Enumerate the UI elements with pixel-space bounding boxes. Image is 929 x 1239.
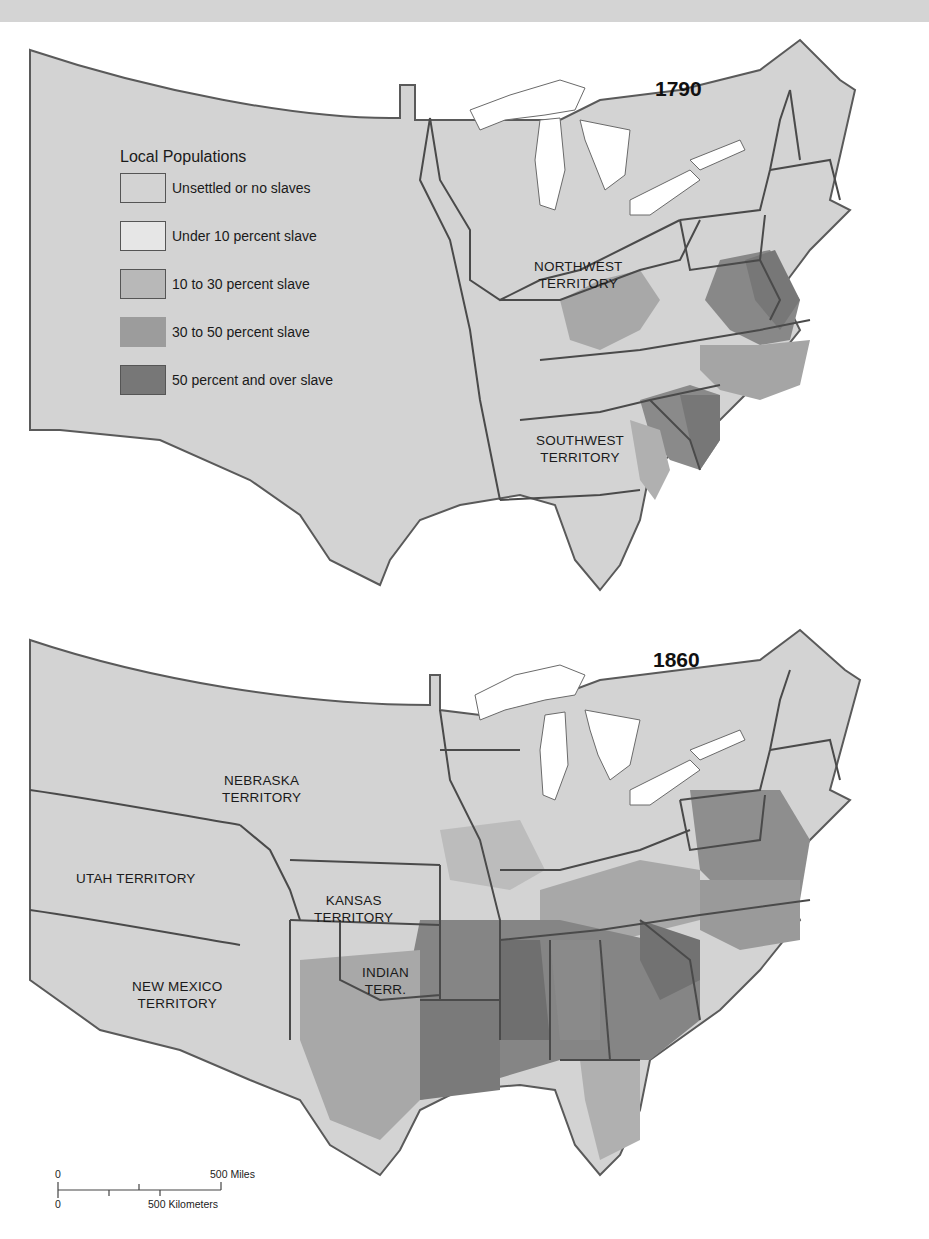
legend-swatch (120, 173, 166, 203)
legend-item-10-30: 10 to 30 percent slave (120, 272, 333, 295)
scale-miles-end: 500 Miles (210, 1168, 255, 1180)
legend-swatch (120, 317, 166, 347)
legend-label: 30 to 50 percent slave (172, 324, 310, 340)
scale-km-start: 0 (55, 1198, 61, 1210)
legend-item-under-10: Under 10 percent slave (120, 224, 333, 247)
scale-km-end: 500 Kilometers (148, 1198, 218, 1210)
region-la (420, 1000, 500, 1100)
legend-item-over-50: 50 percent and over slave (120, 368, 333, 391)
legend-label: Under 10 percent slave (172, 228, 317, 244)
legend-label: 50 percent and over slave (172, 372, 333, 388)
map-1790: 1790 NORTHWEST TERRITORY SOUTHWEST TERRI… (0, 0, 929, 620)
legend-swatch (120, 221, 166, 251)
label-kansas-territory: KANSAS TERRITORY (314, 892, 393, 926)
map-legend: Local Populations Unsettled or no slaves… (120, 148, 333, 416)
legend-title: Local Populations (120, 148, 333, 166)
legend-item-30-50: 30 to 50 percent slave (120, 320, 333, 343)
map-1860-svg (0, 620, 929, 1239)
label-new-mexico-territory: NEW MEXICO TERRITORY (132, 978, 223, 1012)
label-northwest-territory: NORTHWEST TERRITORY (534, 258, 623, 292)
scale-miles-start: 0 (55, 1168, 61, 1180)
scale-bar: 0 500 Miles 0 500 Kilometers (55, 1168, 275, 1238)
year-title-1790: 1790 (655, 77, 702, 101)
legend-label: 10 to 30 percent slave (172, 276, 310, 292)
legend-swatch (120, 269, 166, 299)
label-utah-territory: UTAH TERRITORY (76, 870, 196, 887)
legend-item-unsettled: Unsettled or no slaves (120, 176, 333, 199)
label-southwest-territory: SOUTHWEST TERRITORY (536, 432, 624, 466)
label-indian-territory: INDIAN TERR. (362, 964, 409, 998)
year-title-1860: 1860 (653, 648, 700, 672)
legend-swatch (120, 365, 166, 395)
label-nebraska-territory: NEBRASKA TERRITORY (222, 772, 301, 806)
map-1860: 1860 NEBRASKA TERRITORY UTAH TERRITORY K… (0, 620, 929, 1239)
legend-label: Unsettled or no slaves (172, 180, 311, 196)
